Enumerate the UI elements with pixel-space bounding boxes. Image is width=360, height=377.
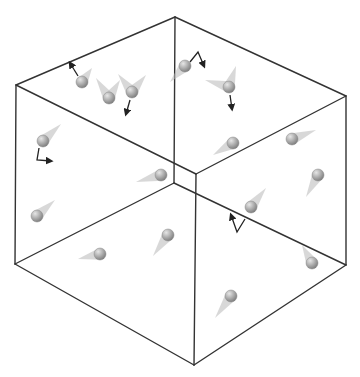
gas-particle — [76, 76, 88, 88]
gas-particle — [306, 257, 318, 269]
gas-particle — [227, 137, 239, 149]
gas-particle — [225, 290, 237, 302]
gas-particle — [223, 81, 235, 93]
gas-particle — [155, 169, 167, 181]
cube-particle-figure — [0, 0, 360, 377]
background — [0, 0, 360, 377]
gas-particle — [245, 201, 257, 213]
gas-particle — [312, 169, 324, 181]
cube-edge — [15, 85, 16, 264]
gas-particle — [179, 60, 191, 72]
gas-box-diagram — [0, 0, 360, 377]
gas-particle — [162, 229, 174, 241]
gas-particle — [94, 248, 106, 260]
gas-particle — [37, 135, 49, 147]
cube-edge — [174, 17, 175, 183]
gas-particle — [286, 133, 298, 145]
gas-particle — [31, 210, 43, 222]
gas-particle — [103, 92, 115, 104]
gas-particle — [126, 86, 138, 98]
